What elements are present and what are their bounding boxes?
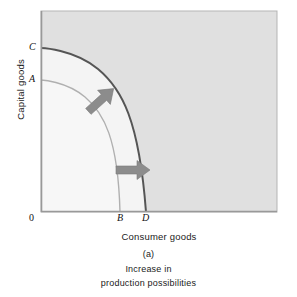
origin-label: 0 xyxy=(29,212,34,223)
caption-line-2: production possibilities xyxy=(0,278,297,288)
y-tick-label-A: A xyxy=(29,73,35,84)
caption-line-1: Increase in xyxy=(0,264,297,274)
x-axis-title: Consumer goods xyxy=(41,231,277,242)
ppf-figure: C A 0 B D Capital goods Consumer goods (… xyxy=(0,0,297,297)
panel-label: (a) xyxy=(0,249,297,259)
x-tick-label-D: D xyxy=(142,212,149,223)
y-tick-label-C: C xyxy=(29,41,36,52)
y-axis-title: Capital goods xyxy=(15,40,26,140)
x-tick-label-B: B xyxy=(117,212,123,223)
